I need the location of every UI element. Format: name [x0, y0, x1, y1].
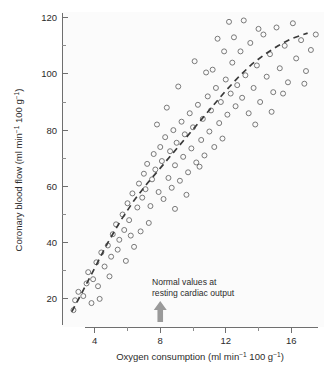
x-tick-label: 16	[286, 335, 297, 346]
y-tick-label: 80	[46, 125, 57, 136]
y-axis-title: Coronary blood flow (ml min−1 100 g−1)	[13, 89, 24, 252]
x-tick-label: 8	[158, 335, 163, 346]
x-axis-title: Oxygen consumption (ml min−1 100 g−1)	[116, 351, 284, 362]
x-axis-ticks: 481216	[92, 327, 296, 346]
chart-figure: 20406080100120 481216 Coronary blood flo…	[0, 0, 332, 373]
y-tick-label: 40	[46, 237, 57, 248]
x-tick-label: 12	[220, 335, 231, 346]
y-tick-label: 120	[41, 12, 57, 23]
annotation-line-1: Normal values at	[152, 277, 217, 287]
x-tick-label: 4	[92, 335, 97, 346]
svg-text:Oxygen consumption (ml min−1 1: Oxygen consumption (ml min−1 100 g−1)	[116, 351, 284, 362]
svg-text:Coronary blood flow (ml min−1: Coronary blood flow (ml min−1 100 g−1)	[13, 89, 24, 252]
y-tick-label: 20	[46, 293, 57, 304]
scatter-plot-svg: 20406080100120 481216 Coronary blood flo…	[0, 0, 332, 373]
annotation-line-2: resting cardiac output	[152, 288, 235, 298]
y-tick-label: 60	[46, 181, 57, 192]
y-tick-label: 100	[41, 68, 57, 79]
